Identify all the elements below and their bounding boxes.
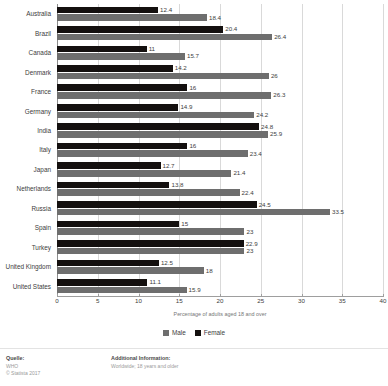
bar-value-label: 15.7 [185,53,199,59]
category-label: India [0,121,51,140]
bar-female [57,104,178,111]
footer-additional-heading: Additional Information: [111,355,178,361]
bar-male [57,267,204,274]
bar-group: 13.822.4 [57,179,383,198]
bar-value-label: 20.4 [223,26,237,32]
bar-value-label: 26.3 [271,92,285,98]
bar-line: 15 [57,221,383,228]
bar-male [57,14,207,21]
bar-line: 16 [57,143,383,150]
bar-value-label: 26.4 [272,34,286,40]
bar-line: 13.8 [57,182,383,189]
bar-female [57,7,158,14]
category-label: Brazil [0,23,51,42]
bar-line: 25.9 [57,131,383,138]
x-tick-label: 25 [257,297,264,304]
bar-female [57,46,147,53]
bar-line: 12.7 [57,162,383,169]
bar-group: 1115.7 [57,43,383,62]
bar-group: 22.923 [57,238,383,257]
bar-male [57,131,268,138]
category-axis-labels: AustraliaBrazilCanadaDenmarkFranceGerman… [0,4,54,296]
chart-legend: MaleFemale [0,329,388,336]
x-tick-label: 15 [176,297,183,304]
bar-line: 21.4 [57,170,383,177]
gridline [383,4,384,296]
bar-value-label: 12.5 [159,260,173,266]
bar-value-label: 18.4 [207,14,221,20]
bar-female [57,26,223,33]
bar-value-label: 23.4 [248,151,262,157]
category-label: Denmark [0,62,51,81]
bar-value-label: 16 [187,85,196,91]
bar-line: 23 [57,248,383,255]
bar-value-label: 24.8 [259,124,273,130]
bar-value-label: 13.8 [169,182,183,188]
category-label: Spain [0,218,51,237]
bar-value-label: 18 [204,267,213,273]
x-tick-label: 40 [380,297,387,304]
bar-line: 26 [57,73,383,80]
bar-line: 26.4 [57,34,383,41]
bar-female [57,240,244,247]
bar-line: 16 [57,84,383,91]
x-tick-label: 30 [298,297,305,304]
legend-item-female[interactable]: Female [195,329,225,336]
plot-area: 12.418.420.426.41115.714.2261626.314.924… [57,4,383,296]
bar-line: 24.8 [57,123,383,130]
bar-value-label: 25.9 [268,131,282,137]
bar-line: 15.9 [57,287,383,294]
category-label: Russia [0,199,51,218]
category-label: United Kingdom [0,257,51,276]
bar-female [57,143,187,150]
bar-group: 12.518 [57,257,383,276]
legend-swatch-icon [195,330,201,336]
bar-male [57,34,272,41]
bar-value-label: 14.2 [173,65,187,71]
bar-male [57,53,185,60]
bar-line: 23 [57,228,383,235]
legend-label: Female [204,329,225,336]
bar-line: 15.7 [57,53,383,60]
footer-source: Quelle: WHO © Statista 2017 [6,355,40,378]
bar-male [57,189,240,196]
chart-figure: AustraliaBrazilCanadaDenmarkFranceGerman… [0,0,388,348]
bar-line: 12.5 [57,260,383,267]
bar-line: 26.3 [57,92,383,99]
x-tick-label: 0 [55,297,58,304]
bar-female [57,221,179,228]
bar-value-label: 11 [147,46,155,52]
bar-male [57,92,271,99]
bar-group: 24.825.9 [57,121,383,140]
bar-line: 33.5 [57,209,383,216]
bar-male [57,209,330,216]
footer-additional-line-1: Worldwide; 18 years and older [111,363,178,371]
category-label: United States [0,277,51,296]
bar-line: 11.1 [57,279,383,286]
bar-value-label: 15.9 [187,287,201,293]
bar-group: 20.426.4 [57,23,383,42]
x-tick-label: 5 [96,297,99,304]
bar-male [57,228,244,235]
bar-value-label: 12.4 [158,7,172,13]
bar-rows: 12.418.420.426.41115.714.2261626.314.924… [57,4,383,296]
bar-line: 23.4 [57,150,383,157]
bar-line: 20.4 [57,26,383,33]
bar-value-label: 26 [269,73,278,79]
category-label: Germany [0,101,51,120]
bar-group: 1523 [57,218,383,237]
x-tick-label: 35 [339,297,346,304]
category-label: Netherlands [0,179,51,198]
bar-female [57,201,257,208]
bar-female [57,84,187,91]
bar-female [57,279,147,286]
bar-group: 24.533.5 [57,199,383,218]
bar-line: 24.2 [57,112,383,119]
bar-group: 1626.3 [57,82,383,101]
category-label: Australia [0,4,51,23]
legend-item-male[interactable]: Male [163,329,186,336]
bar-female [57,162,161,169]
bar-value-label: 33.5 [330,209,344,215]
x-tick-label: 20 [217,297,224,304]
x-axis-title: Percentage of adults aged 18 and over [57,311,383,317]
